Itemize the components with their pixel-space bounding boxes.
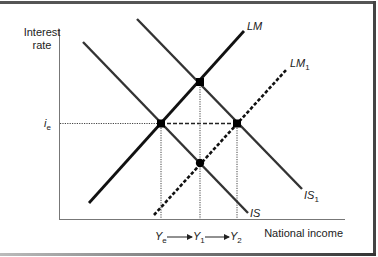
y-axis-label-line1: Interest: [24, 26, 61, 38]
equilibrium-point-initial: [157, 120, 165, 128]
y-axis-label-line2: rate: [33, 39, 52, 51]
lm-curve: [89, 31, 244, 203]
ie-label: ie: [44, 117, 51, 132]
y2-label: Y2: [230, 230, 242, 245]
equilibrium-point-is-lm1: [196, 159, 204, 167]
equilibrium-point-is1-lm: [196, 78, 204, 86]
is1-curve: [137, 19, 302, 189]
islm-diagram: Interest rate National income ie LM LM1 …: [0, 0, 378, 257]
is-label: IS: [250, 207, 261, 219]
frame-right-border: [373, 1, 376, 256]
lm1-curve: [154, 69, 287, 215]
is1-label: IS1: [304, 189, 319, 204]
frame-top-border: [0, 1, 376, 4]
is-curve: [83, 42, 248, 213]
frame-bottom-border: [0, 253, 376, 256]
x-axis-label: National income: [264, 227, 343, 239]
equilibrium-point-is1-lm1: [233, 120, 241, 128]
lm-label: LM: [247, 20, 263, 32]
ye-label: Ye: [155, 230, 167, 245]
y1-label: Y1: [193, 230, 205, 245]
lm1-label: LM1: [290, 57, 310, 72]
